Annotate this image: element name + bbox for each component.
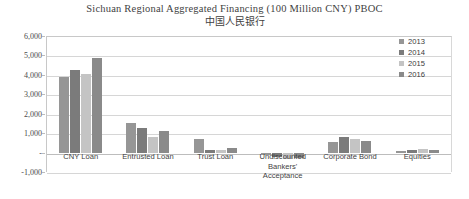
x-axis-category-label: Entrusted Loan [114, 152, 181, 162]
bar [92, 58, 102, 153]
y-axis-tick [42, 153, 45, 154]
y-axis-tick [42, 172, 45, 173]
y-axis-tick-label: -1,000 [0, 168, 42, 177]
bar [148, 137, 158, 153]
legend-item[interactable]: 2013 [399, 36, 461, 47]
chart-legend: 2013201420152016 [399, 36, 461, 80]
legend-swatch-icon [399, 39, 404, 44]
bar [194, 139, 204, 153]
y-axis-tick-label: 6,000 [0, 32, 42, 41]
y-axis-tick-label: 5,000 [0, 51, 42, 60]
y-axis: 6,0005,0004,0003,0002,0001,000--1,000 [0, 36, 42, 172]
chart-title-block: Sichuan Regional Aggregated Financing (1… [0, 2, 469, 28]
legend-item-label: 2014 [408, 48, 425, 57]
legend-swatch-icon [399, 61, 404, 66]
x-axis-category-label: Trust Loan [182, 152, 249, 162]
bar [70, 70, 80, 153]
x-axis-category-label: Corporate Bond [316, 152, 383, 162]
y-axis-tick [42, 94, 45, 95]
legend-item-label: 2013 [408, 37, 425, 46]
bar [59, 77, 69, 153]
bar [339, 137, 349, 153]
y-axis-tick [42, 133, 45, 134]
legend-item[interactable]: 2015 [399, 58, 461, 69]
x-axis: CNY LoanEntrusted LoanTrust LoanUndiscou… [47, 152, 451, 198]
y-axis-tick [42, 114, 45, 115]
legend-item[interactable]: 2016 [399, 69, 461, 80]
x-axis-category-label: Equities [384, 152, 451, 162]
y-axis-tick-label: - [0, 148, 42, 157]
x-axis-category-label: CNY Loan [47, 152, 114, 162]
legend-swatch-icon [399, 72, 404, 77]
legend-item-label: 2016 [408, 70, 425, 79]
y-axis-tick-label: 2,000 [0, 109, 42, 118]
legend-swatch-icon [399, 50, 404, 55]
bar [361, 141, 371, 153]
chart-subtitle: 中国人民银行 [0, 15, 469, 28]
chart-container: Sichuan Regional Aggregated Financing (1… [0, 0, 469, 199]
bar [81, 74, 91, 152]
chart-title: Sichuan Regional Aggregated Financing (1… [0, 2, 469, 15]
bar [159, 131, 169, 153]
y-axis-tick-label: 3,000 [0, 90, 42, 99]
legend-item[interactable]: 2014 [399, 47, 461, 58]
legend-item-label: 2015 [408, 59, 425, 68]
y-axis-tick [42, 75, 45, 76]
y-axis-tick [42, 36, 45, 37]
y-axis-tick-label: 1,000 [0, 129, 42, 138]
bar [350, 139, 360, 153]
bar [137, 128, 147, 153]
y-axis-tick-label: 4,000 [0, 70, 42, 79]
bar [328, 142, 338, 153]
x-axis-category-label: Undiscounted Bankers' Acceptance [249, 152, 316, 181]
y-axis-tick [42, 55, 45, 56]
bar [126, 123, 136, 152]
